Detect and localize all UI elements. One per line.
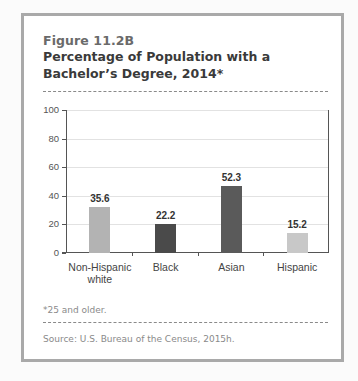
- figure-number: Figure 11.2B: [43, 33, 134, 48]
- x-tick: [263, 253, 264, 256]
- bar-value-label: 22.2: [141, 210, 191, 221]
- bar: [287, 233, 308, 253]
- bar-value-label: 15.2: [272, 219, 322, 230]
- y-tick-label: 80: [29, 133, 59, 144]
- y-tick-label: 40: [29, 190, 59, 201]
- x-category-label: Hispanic: [257, 261, 337, 273]
- y-tick-label: 20: [29, 218, 59, 229]
- gridline: [66, 167, 329, 168]
- bar-value-label: 35.6: [75, 193, 125, 204]
- y-tick-label: 60: [29, 161, 59, 172]
- figure-frame: Figure 11.2B Percentage of Population wi…: [21, 13, 344, 362]
- axis-right: [328, 110, 329, 253]
- footnote: *25 and older.: [43, 305, 107, 315]
- divider: [43, 322, 328, 323]
- y-tick-label: 0: [29, 247, 59, 258]
- gridline: [66, 139, 329, 140]
- x-tick: [132, 253, 133, 256]
- x-tick: [198, 253, 199, 256]
- axis-y: [66, 110, 67, 253]
- figure-title: Percentage of Population with a Bachelor…: [43, 48, 323, 82]
- bar-chart: 02040608010035.6Non-Hispanic white22.2Bl…: [66, 110, 329, 253]
- bar: [221, 186, 242, 253]
- bar: [155, 224, 176, 253]
- source-note: Source: U.S. Bureau of the Census, 2015h…: [43, 334, 235, 344]
- y-tick-label: 100: [29, 104, 59, 115]
- gridline: [66, 110, 329, 111]
- bar: [89, 207, 110, 253]
- divider: [43, 91, 328, 92]
- y-tick: [62, 253, 66, 254]
- bar-value-label: 52.3: [206, 172, 256, 183]
